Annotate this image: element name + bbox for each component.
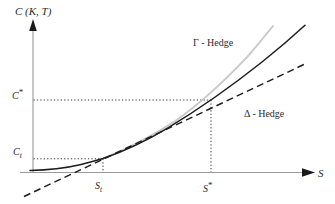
tick-label-c-star-base: C <box>12 90 19 101</box>
tick-label-c-star: C* <box>12 88 23 101</box>
x-axis-label: S <box>318 168 324 179</box>
call-value-curve <box>30 25 305 170</box>
tick-label-s-t: St <box>95 181 102 194</box>
axes-group <box>20 19 315 177</box>
tick-label-s-star-asterisk: * <box>208 180 213 190</box>
annotation-gamma-hedge: Γ - Hedge <box>193 38 233 48</box>
annotation-delta-hedge: Δ - Hedge <box>244 109 284 119</box>
hedging-diagram-canvas <box>0 0 335 204</box>
gamma-hedge-curve <box>103 26 273 159</box>
y-axis-label: C (K, T) <box>15 6 51 17</box>
y-axis-arrow-icon <box>29 19 37 31</box>
tick-label-c-star-asterisk: * <box>19 87 24 97</box>
tick-label-c-t-base: C <box>13 146 20 157</box>
option-hedging-figure: C (K, T) S C* Ct St S* Γ - Hedge Δ - Hed… <box>0 0 335 204</box>
tick-label-c-t-subscript: t <box>20 151 22 160</box>
x-axis-arrow-icon <box>302 168 315 177</box>
tick-label-s-t-subscript: t <box>100 185 102 194</box>
guide-lines-group <box>34 100 212 172</box>
tick-label-c-t: Ct <box>13 147 22 160</box>
tick-label-s-star: S* <box>203 181 213 194</box>
